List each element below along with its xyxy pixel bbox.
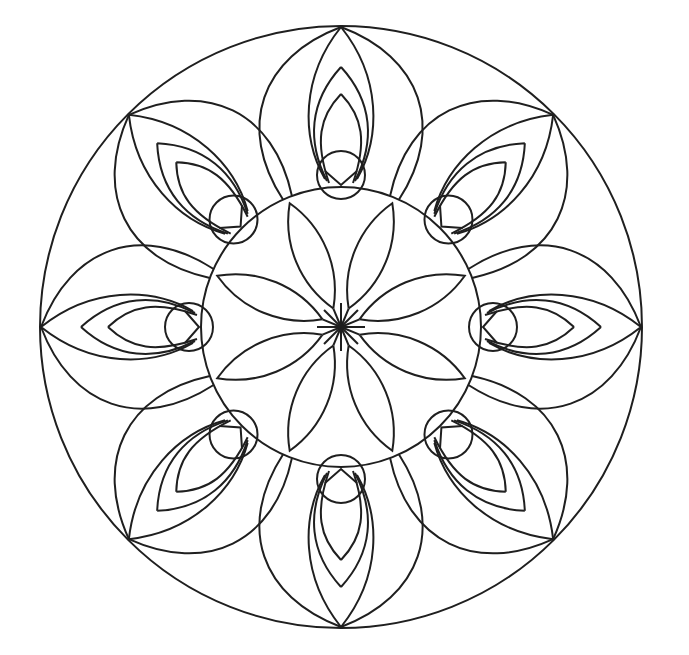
- nested-petal-middle: [425, 124, 544, 243]
- outer-petal-left: [431, 359, 611, 539]
- outer-petal-left: [373, 57, 553, 237]
- petal-unit: [373, 359, 610, 596]
- flower-petal: [211, 319, 329, 393]
- nested-petal-outer: [106, 92, 259, 245]
- small-circle: [415, 401, 483, 469]
- petal-unit: [373, 57, 610, 294]
- flower-petal-unit: [211, 312, 347, 394]
- flower-petal-unit: [326, 321, 408, 457]
- nested-petal-inner: [485, 307, 574, 347]
- petal-unit: [41, 245, 214, 408]
- flower-petal: [333, 339, 407, 457]
- v-notch: [483, 311, 497, 343]
- flower-petal-unit: [335, 260, 471, 342]
- outer-petal-right: [129, 57, 309, 237]
- nested-petal-inner: [321, 94, 361, 183]
- nested-petal-middle: [138, 124, 257, 243]
- flower-petal: [211, 260, 329, 334]
- petal-unit: [71, 57, 308, 294]
- outer-petal-right: [431, 115, 611, 295]
- petal-unit: [259, 454, 422, 627]
- small-circle: [415, 186, 483, 254]
- petal-unit: [259, 27, 422, 200]
- nested-petal-outer: [423, 92, 576, 245]
- nested-petal-inner: [108, 307, 197, 347]
- flower-petal-unit: [274, 197, 356, 333]
- nested-petal-outer: [106, 409, 259, 562]
- nested-petal-middle: [138, 411, 257, 530]
- mandala-drawing: Mandala coloring page: [0, 0, 689, 655]
- mandala-svg: [0, 0, 689, 655]
- nested-petal-inner: [321, 471, 361, 560]
- outer-petal-left: [71, 115, 251, 295]
- flower-petal: [353, 260, 471, 334]
- petal-unit: [71, 359, 308, 596]
- flower-petal-unit: [211, 260, 347, 342]
- flower-petal-unit: [274, 321, 356, 457]
- flower-petal: [353, 319, 471, 393]
- flower-petal-unit: [335, 312, 471, 394]
- flower-petal: [274, 339, 348, 457]
- nested-petal-middle: [425, 411, 544, 530]
- outer-petal-right: [71, 359, 251, 539]
- petal-unit: [468, 245, 641, 408]
- outer-petal-left: [129, 417, 309, 597]
- small-circle: [200, 401, 268, 469]
- v-notch: [325, 469, 357, 483]
- small-circle: [200, 186, 268, 254]
- flower-petal: [333, 197, 407, 315]
- v-notch: [325, 171, 357, 185]
- nested-petal-outer: [423, 409, 576, 562]
- flower-petal-unit: [326, 197, 408, 333]
- outer-petal-right: [373, 417, 553, 597]
- v-notch: [185, 311, 199, 343]
- flower-petal: [274, 197, 348, 315]
